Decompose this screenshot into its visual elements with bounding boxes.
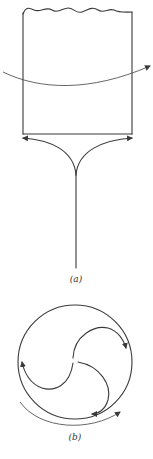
panel-a: (a) [3,8,150,284]
panel-b: (b) [18,305,132,442]
flow-across-arrow [3,66,150,86]
spiral-arm-left [22,362,73,389]
split-left-arrow [23,138,76,175]
panel-a-label: (a) [70,274,83,284]
diagram-canvas: (a) (b) [0,0,153,459]
spiral-arm-bottom [78,362,109,414]
vortex-circle [18,305,132,419]
container-wavy-top [23,8,132,14]
rotation-arrow [20,402,120,425]
spiral-arm-top-right [73,327,126,358]
panel-b-label: (b) [69,432,82,442]
split-right-arrow [76,138,132,175]
